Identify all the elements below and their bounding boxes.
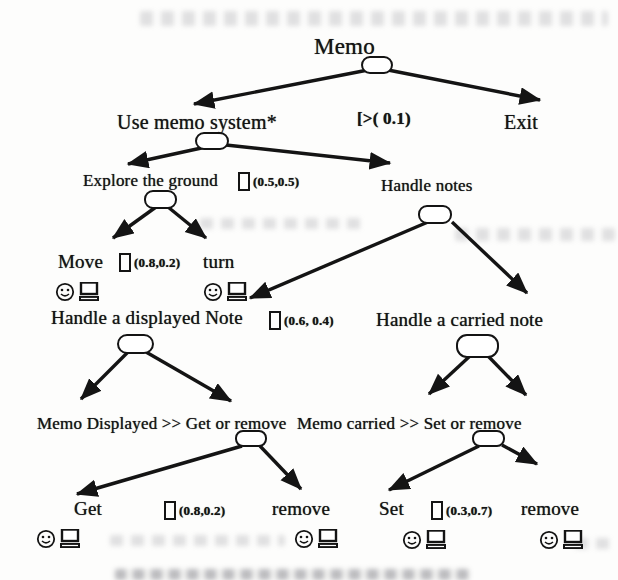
label-use-memo-system: Use memo system* [117,111,277,134]
choice-box-icon [119,253,131,272]
probability-annotation-explore: (0.5,0.5) [238,171,299,191]
edge-to-move [113,207,156,238]
label-get: Get [74,498,102,520]
label-explore-the-ground: Explore the ground [83,171,218,191]
node-handle-notes [419,206,451,223]
probability-annotation-set: (0.3,0.7) [431,500,492,520]
probability-annotation-move: (0.8,0.2) [119,252,180,272]
choice-box-icon [269,311,281,330]
smiley-face-icon [402,530,422,550]
label-move: Move [58,251,103,273]
probability-annotation-displayed: (0.6, 0.4) [269,310,334,330]
computer-icon [226,282,248,302]
edge-to-get-or-remove [146,352,231,401]
choice-box-icon [164,501,176,520]
agent-icons-turn [203,282,248,302]
edge-to-explore-the-ground [128,147,206,164]
agent-icons-move [55,282,100,302]
label-set: Set [379,498,404,520]
label-handle-displayed-note: Handle a displayed Note [51,307,243,329]
agent-icons-remove-carried [539,530,584,550]
smiley-face-icon [203,282,223,302]
label-exit: Exit [504,111,538,134]
label-handle-carried-note: Handle a carried note [376,309,543,331]
smiley-face-icon [55,282,75,302]
edge-to-memo-displayed [81,352,128,399]
node-use-memo-system [196,133,228,149]
node-handle-carried-note [457,335,498,357]
edge-to-handle-displayed-note [250,222,428,298]
computer-icon [59,529,81,549]
edge-memo-to-use-memo-system [194,70,368,104]
edge-to-remove-displayed [260,446,301,489]
choice-box-icon [238,172,250,191]
node-handle-displayed-note [118,335,153,353]
label-memo-carried-set-or-remove: Memo carried >> Set or remove [297,414,522,434]
computer-icon [317,529,339,549]
scanned-figure-page: Memo Use memo system* [>( 0.1) Exit Expl… [0,0,618,580]
smiley-face-icon [539,530,559,550]
node-explore-the-ground [145,191,176,208]
label-memo-displayed-get-or-remove: Memo Displayed >> Get or remove [37,414,287,434]
agent-icons-set [402,530,447,550]
edge-to-handle-notes [226,145,390,163]
label-remove-displayed: remove [272,498,330,520]
edge-to-set [389,446,479,490]
edge-to-memo-carried [429,356,470,394]
label-disabling-operator: [>( 0.1) [357,109,411,129]
edge-to-remove-carried [502,445,537,464]
edge-to-turn [168,207,206,238]
probability-value: (0.5,0.5) [253,174,299,190]
edge-to-set-or-remove [488,356,526,395]
root-label-memo: Memo [314,34,375,60]
label-turn: turn [203,251,234,273]
probability-value: (0.6, 0.4) [284,313,334,329]
smiley-face-icon [36,529,56,549]
edge-to-get [77,446,242,494]
edge-to-handle-carried-note [452,222,527,293]
agent-icons-remove-displayed [294,529,339,549]
label-remove-carried: remove [521,498,579,520]
computer-icon [425,530,447,550]
computer-icon [562,530,584,550]
agent-icons-get [36,529,81,549]
choice-box-icon [431,501,443,520]
edge-memo-to-exit [388,70,540,100]
label-handle-notes: Handle notes [381,176,473,196]
computer-icon [78,282,100,302]
probability-annotation-get: (0.8,0.2) [164,500,225,520]
smiley-face-icon [294,529,314,549]
probability-value: (0.8,0.2) [179,503,225,519]
probability-value: (0.8,0.2) [134,255,180,271]
probability-value: (0.3,0.7) [446,503,492,519]
